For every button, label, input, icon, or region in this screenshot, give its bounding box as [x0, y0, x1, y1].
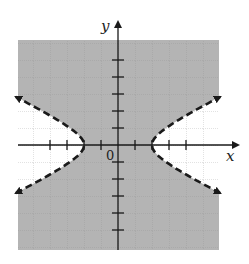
hyperbola-graph: y x 0 — [0, 0, 249, 264]
y-axis-label: y — [100, 17, 110, 35]
origin-label: 0 — [106, 148, 114, 163]
x-axis-label: x — [226, 147, 235, 165]
